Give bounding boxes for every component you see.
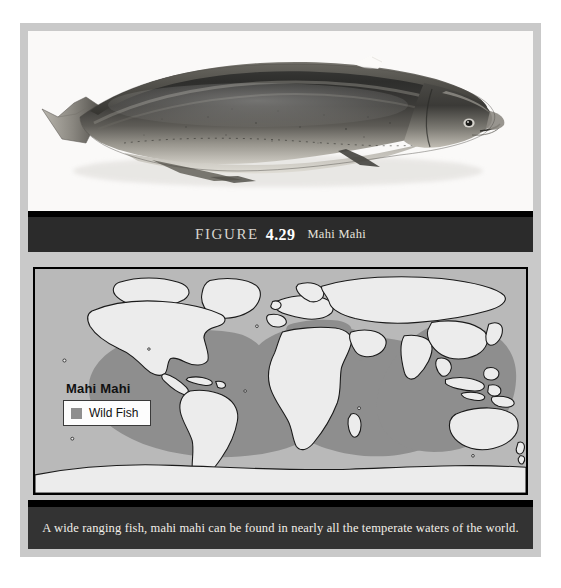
map-legend: Mahi Mahi Wild Fish xyxy=(63,381,151,426)
description-caption-bar: A wide ranging fish, mahi mahi can be fo… xyxy=(28,507,533,549)
figure-number: 4.29 xyxy=(266,226,296,244)
mahi-mahi-specimen-photo xyxy=(28,31,533,211)
map-legend-title: Mahi Mahi xyxy=(66,381,151,396)
figure-label: FIGURE xyxy=(195,226,259,243)
distribution-map-panel: Mahi Mahi Wild Fish xyxy=(28,262,533,500)
map-frame: Mahi Mahi Wild Fish xyxy=(33,267,528,495)
fish-photo-panel xyxy=(28,31,533,211)
map-legend-item-label: Wild Fish xyxy=(89,406,138,420)
figure-page: FIGURE 4.29 Mahi Mahi xyxy=(0,0,561,588)
map-divider-rule xyxy=(28,500,533,507)
wild-fish-swatch-icon xyxy=(71,408,82,419)
description-caption-text: A wide ranging fish, mahi mahi can be fo… xyxy=(28,521,533,536)
map-legend-box: Wild Fish xyxy=(63,400,151,426)
figure-subject: Mahi Mahi xyxy=(307,227,366,242)
figure-caption-bar: FIGURE 4.29 Mahi Mahi xyxy=(28,217,533,252)
